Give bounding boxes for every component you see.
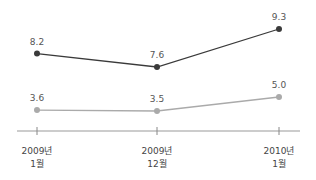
x-tick-label: 2009년1월 [22,145,53,171]
data-point[interactable] [154,108,160,114]
data-label: 3.6 [30,93,44,103]
x-tick-label: 2010년1월 [264,145,295,171]
line-chart: 8.27.69.33.63.55.0 2009년1월2009년12월2010년1… [0,0,316,180]
data-label: 9.3 [272,12,286,22]
x-tick-label-line: 1월 [22,158,53,171]
data-point[interactable] [34,51,40,57]
x-tick-label-line: 2010년 [264,145,295,158]
data-label: 5.0 [272,80,286,90]
x-tick-label-line: 2009년 [142,145,173,158]
data-label: 7.6 [150,50,164,60]
data-label: 3.5 [150,94,164,104]
data-label: 8.2 [30,37,44,47]
data-point[interactable] [276,94,282,100]
x-tick-label-line: 2009년 [22,145,53,158]
x-tick-label-line: 12월 [142,158,173,171]
data-point[interactable] [34,107,40,113]
data-point[interactable] [276,26,282,32]
x-tick-label: 2009년12월 [142,145,173,171]
series-line [37,29,279,67]
x-tick-label-line: 1월 [264,158,295,171]
data-point[interactable] [154,64,160,70]
